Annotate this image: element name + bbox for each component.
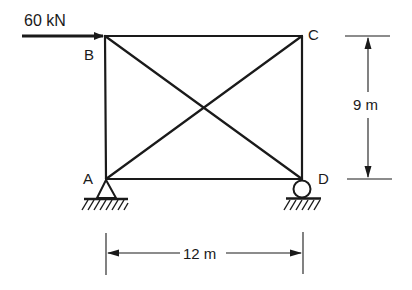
height-dimension-label: 9 m [353,96,378,113]
width-dimension-label: 12 m [183,245,216,262]
roller-support-icon [284,181,321,211]
node-label-C: C [308,26,319,43]
node-label-A: A [83,170,93,187]
load-label: 60 kN [24,12,66,29]
truss-members [105,36,302,179]
member-AB [105,36,106,179]
node-label-D: D [318,170,329,187]
truss-diagram: 60 kN B C A D [0,0,412,290]
node-label-B: B [84,46,94,63]
